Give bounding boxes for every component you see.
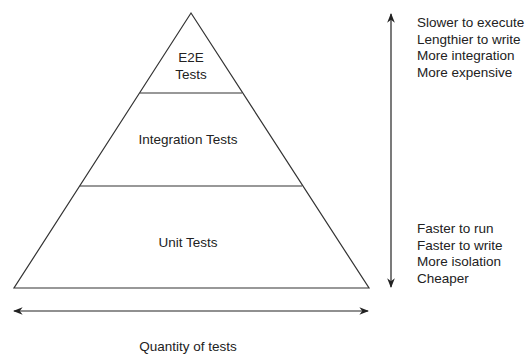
layer-e2e-line1: E2E xyxy=(175,50,207,67)
x-axis-label: Quantity of tests xyxy=(139,339,237,355)
top-characteristic: Slower to execute xyxy=(417,15,524,32)
layer-e2e-label: E2E Tests xyxy=(175,50,207,83)
top-characteristics-list: Slower to execute Lengthier to write Mor… xyxy=(417,15,524,82)
top-characteristic: More expensive xyxy=(417,65,524,82)
bottom-characteristic: Faster to run xyxy=(417,221,503,238)
bottom-characteristic: More isolation xyxy=(417,254,503,271)
layer-unit-label: Unit Tests xyxy=(158,235,217,251)
bottom-characteristic: Faster to write xyxy=(417,238,503,255)
layer-e2e-line2: Tests xyxy=(175,67,207,84)
top-characteristic: Lengthier to write xyxy=(417,32,524,49)
bottom-characteristic: Cheaper xyxy=(417,271,503,288)
bottom-characteristics-list: Faster to run Faster to write More isola… xyxy=(417,221,503,288)
top-characteristic: More integration xyxy=(417,48,524,65)
layer-integration-label: Integration Tests xyxy=(139,132,238,148)
